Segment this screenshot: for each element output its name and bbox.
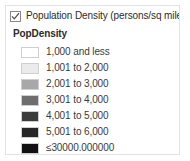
- class-break-row[interactable]: 4,001 to 5,000: [6, 108, 179, 124]
- class-swatch: [21, 95, 39, 106]
- class-break-row[interactable]: 1,000 and less: [6, 44, 179, 60]
- legend-panel: Population Density (persons/sq mile) Pop…: [5, 5, 180, 155]
- class-break-row[interactable]: 2,001 to 3,000: [6, 76, 179, 92]
- class-swatch: [21, 47, 39, 58]
- class-break-row[interactable]: ≤30000.000000: [6, 140, 179, 155]
- class-break-row[interactable]: 1,001 to 2,000: [6, 60, 179, 76]
- class-swatch: [21, 63, 39, 74]
- class-swatch: [21, 79, 39, 90]
- checkmark-icon: [11, 12, 20, 21]
- class-break-row[interactable]: 3,001 to 4,000: [6, 92, 179, 108]
- class-swatch: [21, 143, 39, 154]
- class-swatch: [21, 127, 39, 138]
- class-break-list: 1,000 and less 1,001 to 2,000 2,001 to 3…: [6, 43, 179, 155]
- field-title: PopDensity: [6, 24, 179, 43]
- layer-visibility-row[interactable]: Population Density (persons/sq mile): [6, 6, 179, 24]
- class-break-row[interactable]: 5,001 to 6,000: [6, 124, 179, 140]
- class-swatch: [21, 111, 39, 122]
- class-break-label: ≤30000.000000: [46, 142, 114, 154]
- class-break-label: 1,000 and less: [46, 46, 110, 58]
- class-break-label: 5,001 to 6,000: [46, 126, 109, 138]
- layer-visibility-checkbox[interactable]: [10, 11, 21, 22]
- layer-name-label: Population Density (persons/sq mile): [26, 10, 180, 22]
- class-break-label: 4,001 to 5,000: [46, 110, 109, 122]
- class-break-label: 3,001 to 4,000: [46, 94, 109, 106]
- class-break-label: 2,001 to 3,000: [46, 78, 109, 90]
- class-break-label: 1,001 to 2,000: [46, 62, 109, 74]
